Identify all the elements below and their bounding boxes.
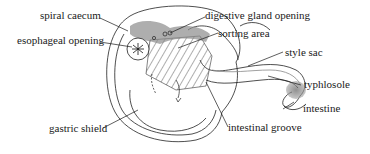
label-spiral-caecum: spiral caecum — [40, 10, 101, 21]
label-typhlosole: typhlosole — [304, 79, 350, 90]
label-sorting-area: sorting area — [218, 28, 270, 39]
label-intestinal-groove: intestinal groove — [228, 122, 302, 133]
label-digestive-gland-opening: digestive gland opening — [205, 10, 310, 21]
label-style-sac: style sac — [285, 47, 323, 58]
label-gastric-shield: gastric shield — [49, 123, 107, 134]
stomach-diagram: spiral caecum esophageal opening digesti… — [0, 0, 370, 154]
label-intestine: intestine — [303, 103, 340, 114]
esophageal-opening — [127, 38, 149, 60]
label-esophageal-opening: esophageal opening — [17, 35, 104, 46]
